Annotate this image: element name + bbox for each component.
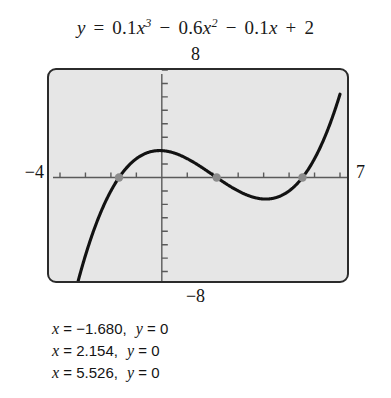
solution-y-value: 0 (151, 364, 159, 381)
solution-x-value: −1.680, (76, 320, 126, 337)
solution-y-equals: = (147, 320, 156, 337)
solution-y-value: 0 (160, 320, 168, 337)
solution-x-equals: = (63, 320, 72, 337)
solution-y-symbol: y (136, 320, 143, 337)
equation-constant-term: 2 (304, 17, 314, 38)
equation-equals: = (90, 17, 107, 38)
y-axis-min-label: −8 (0, 286, 391, 307)
equation-term3-coefficient: 0.1 (245, 17, 269, 38)
solution-x-symbol: x (52, 342, 59, 359)
solution-x-equals: = (63, 342, 72, 359)
x-axis-tick-marks (60, 173, 340, 178)
solution-x-symbol: x (52, 364, 59, 381)
graph-svg (49, 70, 349, 283)
equation-term2-exponent: 2 (211, 16, 217, 30)
solution-y-equals: = (138, 364, 147, 381)
equation-term1-coefficient: 0.1 (112, 17, 136, 38)
x-axis-min-label: −4 (12, 162, 44, 183)
root-marker (115, 173, 123, 181)
equation-term2-coefficient: 0.6 (178, 17, 202, 38)
function-curve (75, 94, 340, 283)
solution-x-value: 2.154, (76, 342, 118, 359)
list-item: x = −1.680,y = 0 (52, 318, 382, 340)
solution-x-symbol: x (52, 320, 59, 337)
list-item: x = 5.526,y = 0 (52, 362, 382, 384)
equation-operator-1: − (157, 17, 174, 38)
y-axis-tick-marks (162, 70, 168, 283)
x-axis-max-label: 7 (356, 162, 384, 183)
equation-term3-variable: x (269, 17, 278, 38)
equation-operator-3: + (283, 17, 300, 38)
solution-x-equals: = (63, 364, 72, 381)
root-marker (298, 173, 306, 181)
solution-y-symbol: y (127, 342, 134, 359)
equation-operator-2: − (223, 17, 240, 38)
equation-caption: y = 0.1x3 − 0.6x2 − 0.1x + 2 (0, 16, 391, 39)
y-axis-max-label: 8 (0, 44, 391, 65)
solution-y-equals: = (138, 342, 147, 359)
solution-y-symbol: y (127, 364, 134, 381)
equation-term1-exponent: 3 (145, 16, 151, 30)
solution-x-value: 5.526, (76, 364, 118, 381)
root-marker (212, 173, 220, 181)
solution-y-value: 0 (151, 342, 159, 359)
list-item: x = 2.154,y = 0 (52, 340, 382, 362)
solutions-list: x = −1.680,y = 0 x = 2.154,y = 0 x = 5.5… (52, 318, 382, 384)
equation-lhs: y (77, 17, 86, 38)
graph-viewing-window (47, 68, 349, 283)
